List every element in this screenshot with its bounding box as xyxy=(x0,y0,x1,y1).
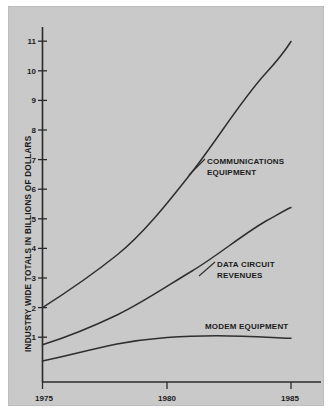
y-tick-label-8: 8 xyxy=(32,126,37,135)
series-label-communications-line2: EQUIPMENT xyxy=(207,168,256,177)
leader-line-data-circuit xyxy=(199,262,215,276)
chart-figure: INDUSTRY WIDE TOTALS IN BILLIONS OF DOLL… xyxy=(8,6,324,406)
y-tick-label-6: 6 xyxy=(32,185,37,194)
series-label-data-circuit-line1: DATA CIRCUIT xyxy=(217,260,275,269)
x-tick-label-1975: 1975 xyxy=(35,394,53,403)
y-tick-label-3: 3 xyxy=(32,274,37,283)
y-tick-label-9: 9 xyxy=(32,96,37,105)
y-tick-label-2: 2 xyxy=(32,304,37,313)
y-tick-label-1: 1 xyxy=(32,333,37,342)
series-label-data-circuit-revenues: DATA CIRCUIT REVENUES xyxy=(217,260,275,280)
x-tick-label-1985: 1985 xyxy=(281,394,299,403)
x-axis-ticks xyxy=(43,382,292,389)
y-tick-label-5: 5 xyxy=(32,215,37,224)
series-label-data-circuit-line2: REVENUES xyxy=(217,271,263,280)
line-chart: INDUSTRY WIDE TOTALS IN BILLIONS OF DOLL… xyxy=(9,7,325,407)
x-tick-label-1980: 1980 xyxy=(158,394,176,403)
y-tick-label-10: 10 xyxy=(27,67,36,76)
series-label-modem-line1: MODEM EQUIPMENT xyxy=(205,322,288,331)
leader-line-communications xyxy=(189,159,205,175)
series-label-communications-equipment: COMMUNICATIONS EQUIPMENT xyxy=(207,157,285,177)
y-tick-label-4: 4 xyxy=(32,244,37,253)
series-label-communications-line1: COMMUNICATIONS xyxy=(207,157,285,166)
series-label-modem-equipment: MODEM EQUIPMENT xyxy=(205,322,288,331)
y-tick-label-7: 7 xyxy=(32,156,37,165)
x-axis-tick-labels: 1975 1980 1985 xyxy=(35,394,299,403)
y-tick-label-11: 11 xyxy=(28,37,37,46)
series-line-modem-equipment xyxy=(43,336,292,361)
